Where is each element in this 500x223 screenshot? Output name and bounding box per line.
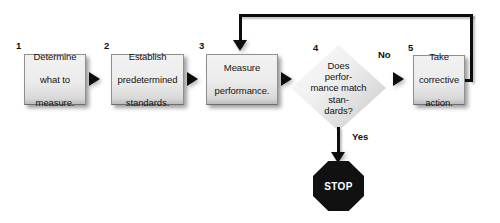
step-number-1: 1 [16, 40, 21, 51]
feedback-loop-left-vertical [239, 14, 242, 42]
box3-line2: performance. [213, 85, 272, 96]
box2-line3: standards. [116, 97, 180, 108]
process-box-establish-predetermined-standards[interactable]: Establishpredeterminedstandards. [111, 54, 184, 105]
step-number-2: 2 [104, 40, 109, 51]
decision-diamond-performance-match-standards[interactable]: Does perfor- mance match stan- dards? [291, 45, 386, 131]
feedback-loop-right-vertical [470, 14, 473, 82]
feedback-loop-arrowhead-icon [233, 40, 247, 51]
box1-line2: what to [32, 74, 79, 85]
box5-line1: Take [417, 51, 461, 62]
branch-label-yes: Yes [352, 131, 368, 142]
box5-line3: action. [417, 97, 461, 108]
box2-line2: predetermined [116, 74, 180, 85]
box2-line1: Establish [116, 51, 180, 62]
process-box-3-text: Measureperformance. [211, 62, 274, 96]
yes-branch-vertical-line [337, 127, 340, 154]
decision-diamond-text: Does perfor- mance match stan- dards? [291, 60, 386, 116]
stop-terminator[interactable]: STOP [313, 161, 364, 211]
process-box-take-corrective-action[interactable]: Takecorrectiveaction. [413, 55, 465, 105]
branch-label-no: No [378, 49, 391, 60]
box1-line3: measure. [32, 97, 79, 108]
process-box-determine-what-to-measure[interactable]: Determinewhat tomeasure. [24, 54, 86, 105]
feedback-loop-top-horizontal [239, 14, 473, 17]
stop-label: STOP [324, 181, 353, 192]
box5-line2: corrective [417, 74, 461, 85]
arrow-decision-no-to-box5-icon [393, 72, 404, 86]
diamond-line5: dards? [324, 105, 352, 116]
arrow-box2-to-box3-icon [187, 72, 198, 86]
process-box-2-text: Establishpredeterminedstandards. [114, 51, 182, 108]
process-box-5-text: Takecorrectiveaction. [415, 51, 463, 108]
step-number-5: 5 [408, 42, 413, 53]
arrow-box1-to-box2-icon [89, 72, 100, 86]
box1-line1: Determine [32, 51, 79, 62]
diamond-line1: Does [328, 60, 350, 71]
process-box-measure-performance[interactable]: Measureperformance. [206, 54, 278, 105]
diamond-line4: stan- [328, 94, 349, 105]
process-box-1-text: Determinewhat tomeasure. [30, 51, 81, 108]
flowchart-canvas: 1 Determinewhat tomeasure. 2 Establishpr… [0, 0, 500, 223]
diamond-line3: mance match [311, 82, 367, 93]
box3-line1: Measure [213, 62, 272, 73]
diamond-line2: perfor- [325, 71, 352, 82]
step-number-3: 3 [199, 40, 204, 51]
